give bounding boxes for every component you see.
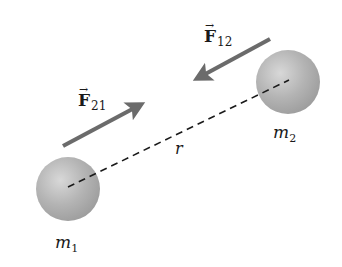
mass-m2-sphere (256, 50, 320, 114)
label-m1: m1 (55, 234, 78, 254)
label-F12: →F12 (204, 28, 232, 48)
vector-arrow-icon: → (205, 20, 214, 31)
label-m2: m2 (273, 124, 296, 144)
label-F21: →F21 (78, 92, 106, 112)
vector-arrow-icon: → (79, 84, 88, 95)
label-r: r (175, 141, 183, 157)
mass-m1-sphere (36, 157, 100, 221)
